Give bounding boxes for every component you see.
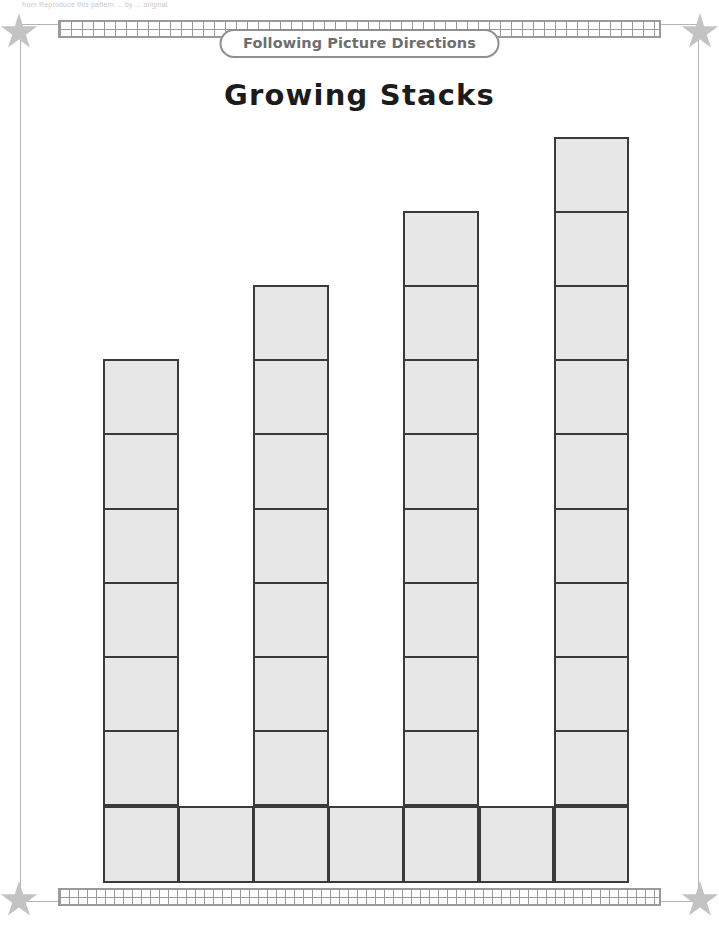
page-title: Growing Stacks: [0, 78, 719, 112]
stack-cube: [178, 806, 254, 883]
stack-cube: [328, 806, 404, 883]
stack-cube: [554, 433, 630, 510]
stack-cube: [253, 582, 329, 659]
stack-cube: [253, 433, 329, 510]
ruler-icon: [58, 888, 661, 906]
growing-stacks-grid: [103, 117, 633, 883]
stack-cube: [554, 211, 630, 288]
stack-cube: [403, 359, 479, 436]
stack-cube: [554, 137, 630, 214]
stack-cube: [253, 508, 329, 585]
stack-cube: [403, 730, 479, 807]
stack-cube: [103, 806, 179, 883]
stack-column: [103, 362, 179, 883]
stack-column: [178, 806, 254, 883]
stack-cube: [103, 656, 179, 733]
stack-cube: [253, 806, 329, 883]
stack-cube: [253, 656, 329, 733]
footer-ruler-strip: [34, 884, 685, 910]
stack-cube: [103, 433, 179, 510]
stack-column: [403, 214, 479, 883]
stack-cube: [403, 211, 479, 288]
stack-cube: [554, 730, 630, 807]
stack-cube: [403, 806, 479, 883]
stack-cube: [403, 285, 479, 362]
publisher-crop-text: from Reproduce this pattern ... by ... o…: [22, 0, 442, 9]
stack-cube: [554, 806, 630, 883]
stack-cube: [403, 582, 479, 659]
stack-cube: [403, 433, 479, 510]
stack-column: [554, 140, 630, 883]
stack-cube: [103, 582, 179, 659]
header-ruler-strip: Following Picture Directions: [34, 16, 685, 42]
stack-cube: [253, 285, 329, 362]
stack-cube: [479, 806, 555, 883]
stack-column: [479, 806, 555, 883]
stack-column: [253, 288, 329, 883]
stack-column: [328, 806, 404, 883]
stack-cube: [253, 359, 329, 436]
stack-cube: [554, 285, 630, 362]
stack-cube: [103, 730, 179, 807]
stack-cube: [554, 582, 630, 659]
stack-cube: [253, 730, 329, 807]
stack-cube: [403, 508, 479, 585]
stack-cube: [403, 656, 479, 733]
worksheet-banner: Following Picture Directions: [219, 29, 500, 58]
banner-label: Following Picture Directions: [243, 35, 476, 51]
stack-cube: [554, 508, 630, 585]
stack-cube: [554, 656, 630, 733]
stack-cube: [554, 359, 630, 436]
stack-cube: [103, 508, 179, 585]
stack-cube: [103, 359, 179, 436]
